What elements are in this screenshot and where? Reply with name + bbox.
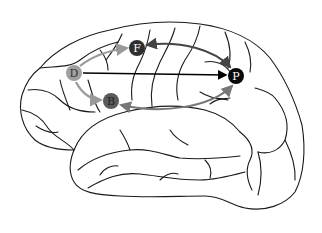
edge-d-to-p (83, 73, 226, 75)
node-d: D (66, 65, 82, 81)
brain-diagram: D F B P (0, 0, 322, 233)
brain-outline (21, 22, 304, 209)
node-d-label: D (70, 68, 79, 79)
node-p-label: P (232, 71, 239, 82)
node-f: F (129, 40, 145, 56)
node-b: B (103, 93, 119, 109)
edge-d-to-f (80, 48, 127, 66)
node-p: P (228, 68, 244, 84)
brain-illustration (0, 0, 322, 233)
node-b-label: B (107, 96, 115, 107)
node-f-label: F (133, 43, 141, 54)
edge-d-to-b (76, 82, 101, 100)
